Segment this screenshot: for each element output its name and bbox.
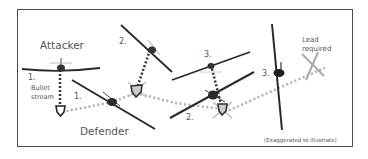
step-defender-3: 3.: [262, 69, 270, 78]
bullet-stream-2: [137, 50, 150, 88]
target-marker-1: [56, 106, 65, 116]
step-attacker-1: 1.: [28, 73, 36, 82]
step-attacker-2: 2.: [119, 37, 127, 46]
deflection-shooting-diagram: Attacker Defender 1. Bullet stream 1. 2.…: [0, 0, 368, 159]
bullet-stream-label-line2: stream: [31, 93, 54, 101]
step-defender-1: 1.: [74, 92, 82, 101]
attacker-aircraft-1: [22, 58, 100, 72]
defender-label: Defender: [80, 125, 129, 137]
defender-aircraft-3: [272, 24, 285, 130]
bullet-stream-3: [211, 65, 222, 108]
attacker-label: Attacker: [40, 39, 85, 51]
footnote-label: (Exaggerated to illustrate): [264, 137, 337, 144]
lead-required-label-line2: required: [302, 45, 331, 53]
lead-required-label-line1: Lead: [302, 36, 319, 44]
bullet-stream-label-line1: Bullet: [31, 84, 50, 92]
defender-aircraft-1: [72, 80, 155, 129]
step-attacker-3: 3.: [204, 50, 212, 59]
defender-aircraft-2: [170, 72, 254, 118]
lead-required-marker: [302, 52, 324, 80]
attacker-aircraft-2: [121, 25, 172, 72]
step-defender-2: 2.: [186, 113, 194, 122]
